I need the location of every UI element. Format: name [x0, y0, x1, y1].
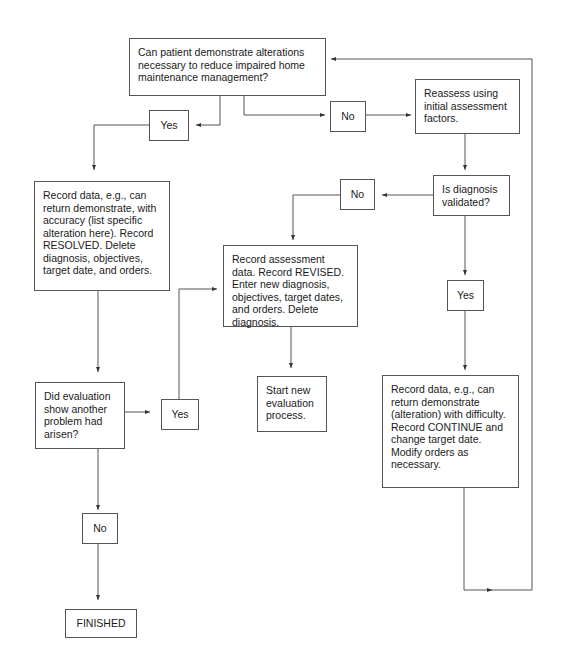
- node-no-problem: No: [82, 513, 118, 544]
- node-start-new: Start new evaluation process.: [257, 376, 327, 432]
- node-text: Record data, e.g., can return demonstrat…: [43, 189, 156, 276]
- node-revised: Record assessment data. Record REVISED. …: [223, 245, 358, 327]
- node-text: Did evaluation show another problem had …: [44, 390, 111, 440]
- node-text: Record data, e.g., can return demonstrat…: [391, 383, 506, 470]
- node-no-top: No: [330, 101, 366, 132]
- node-reassess: Reassess using initial assessment factor…: [415, 79, 520, 134]
- node-text: Record assessment data. Record REVISED. …: [232, 253, 344, 328]
- node-yes-problem: Yes: [161, 399, 199, 430]
- node-text: Can patient demonstrate alterations nece…: [138, 46, 305, 83]
- node-text: FINISHED: [76, 617, 125, 630]
- node-yes-validated: Yes: [447, 280, 484, 311]
- node-text: Reassess using initial assessment factor…: [424, 87, 507, 124]
- node-diagnosis-validated: Is diagnosis validated?: [433, 175, 510, 216]
- node-text: Start new evaluation process.: [266, 384, 314, 421]
- node-resolved: Record data, e.g., can return demonstrat…: [34, 181, 170, 291]
- node-text: Yes: [160, 119, 177, 132]
- node-another-problem: Did evaluation show another problem had …: [35, 382, 125, 449]
- node-text: No: [351, 188, 364, 201]
- node-continue: Record data, e.g., can return demonstrat…: [382, 375, 519, 488]
- node-text: Is diagnosis validated?: [442, 183, 497, 208]
- node-question-alterations: Can patient demonstrate alterations nece…: [129, 38, 326, 96]
- node-text: Yes: [171, 408, 188, 421]
- node-text: No: [93, 522, 106, 535]
- node-finished: FINISHED: [65, 609, 137, 638]
- node-yes-top: Yes: [149, 110, 189, 141]
- flowchart-canvas: Can patient demonstrate alterations nece…: [0, 0, 561, 667]
- node-no-validated: No: [340, 179, 375, 210]
- node-text: Yes: [457, 289, 474, 302]
- node-text: No: [341, 110, 354, 123]
